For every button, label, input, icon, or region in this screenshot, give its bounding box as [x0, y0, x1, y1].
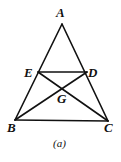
label-g: G — [57, 91, 67, 106]
label-b: B — [6, 120, 16, 135]
label-c: C — [104, 120, 113, 135]
segment-ec — [38, 72, 108, 121]
triangle-diagram: A E D G B C (a) — [0, 0, 121, 162]
segment-bc — [15, 120, 108, 121]
label-d: D — [87, 65, 98, 80]
figure-caption: (a) — [53, 137, 66, 150]
label-a: A — [55, 5, 65, 20]
label-e: E — [23, 65, 33, 80]
